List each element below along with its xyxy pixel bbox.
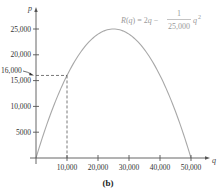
y-tick-label: 5000 xyxy=(16,128,31,137)
annotation-guides xyxy=(36,75,67,158)
x-tick-label: 10,000 xyxy=(57,163,78,172)
equation-denominator: 25,000 xyxy=(168,22,190,31)
y-axis-label: p xyxy=(27,4,32,13)
equation-lhs: R(q) = 2q − xyxy=(120,16,159,25)
x-tick-label: 30,000 xyxy=(119,163,140,172)
y-axis-arrow-icon xyxy=(34,7,37,12)
revenue-chart: p q 500010,00015,00020,00025,000 10,0002… xyxy=(0,0,219,194)
equation-suffix: q xyxy=(193,16,197,25)
axes xyxy=(30,10,207,164)
y-tick-label: 20,000 xyxy=(10,50,31,59)
subfigure-label: (b) xyxy=(103,178,114,188)
equation-numerator: 1 xyxy=(177,9,181,18)
x-tick-label: 20,000 xyxy=(88,163,109,172)
annotation-label: 16,000 xyxy=(1,66,22,75)
revenue-curve xyxy=(36,29,191,158)
x-axis-arrow-icon xyxy=(205,156,210,159)
y-ticks: 500010,00015,00020,00025,000 xyxy=(10,25,39,137)
x-axis-label: q xyxy=(212,156,216,165)
equation-exponent: 2 xyxy=(198,14,201,20)
annotation-arrow-head-icon xyxy=(29,73,34,76)
y-tick-label: 10,000 xyxy=(10,102,31,111)
x-tick-label: 40,000 xyxy=(150,163,171,172)
y-tick-label: 15,000 xyxy=(10,76,31,85)
x-tick-label: 50,000 xyxy=(181,163,202,172)
function-label: R(q) = 2q − 1 25,000 q 2 xyxy=(120,9,201,31)
y-tick-label: 25,000 xyxy=(10,25,31,34)
